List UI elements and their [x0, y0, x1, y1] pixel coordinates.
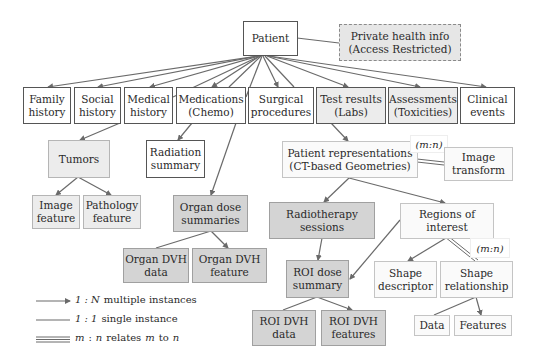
node-data: Data — [414, 315, 450, 336]
node-patient-representations: Patient representations (CT-based Geomet… — [282, 141, 418, 178]
node-image-transform: Image transform — [444, 147, 513, 181]
node-regions-of-interest: Regions of interest — [400, 203, 494, 239]
legend-one-to-one: 1 : 1 single instance — [75, 313, 178, 324]
node-patient: Patient — [243, 21, 298, 56]
node-private-health-info: Private health info (Access Restricted) — [339, 24, 461, 61]
mn-label-shape-relationship: (m:n) — [470, 238, 510, 258]
legend-n-symbol: n — [96, 332, 102, 343]
node-surgical-procedures: Surgical procedures — [248, 87, 314, 124]
node-family-history: Family history — [23, 87, 71, 124]
node-pathology-feature: Pathology feature — [83, 195, 141, 229]
node-medical-history: Medical history — [124, 87, 173, 124]
legend-m-symbol-2: m — [145, 332, 154, 343]
node-radiation-summary: Radiation summary — [146, 140, 205, 178]
node-tumors: Tumors — [48, 140, 110, 178]
node-shape-relationship: Shape relationship — [440, 261, 513, 298]
node-test-results: Test results (Labs) — [316, 87, 386, 124]
legend-one-to-one-symbol: 1 : 1 — [75, 313, 97, 324]
node-roi-dvh-data: ROI DVH data — [252, 310, 316, 346]
legend-one-to-many-symbol: 1 : N — [75, 294, 100, 305]
node-organ-dose-summaries: Organ dose summaries — [173, 195, 248, 232]
node-medications: Medications (Chemo) — [176, 87, 246, 124]
legend-m-symbol: m — [75, 332, 84, 343]
node-clinical-events: Clinical events — [460, 87, 515, 124]
node-roi-dose-summary: ROI dose summary — [286, 260, 349, 298]
node-radiotherapy-sessions: Radiotherapy sessions — [269, 202, 375, 239]
node-image-feature: Image feature — [32, 195, 80, 229]
legend-colon: : — [88, 332, 91, 343]
node-organ-dvh-feature: Organ DVH feature — [192, 248, 267, 283]
node-social-history: Social history — [74, 87, 121, 124]
node-organ-dvh-data: Organ DVH data — [123, 248, 189, 283]
legend-n-symbol-2: n — [173, 332, 179, 343]
mn-label-image-transform: (m:n) — [410, 135, 448, 153]
legend-one-to-many: 1 : N multiple instances — [75, 294, 197, 305]
node-shape-descriptor: Shape descriptor — [374, 261, 437, 298]
legend-one-to-one-text: single instance — [101, 313, 177, 324]
legend-to-text: to — [159, 332, 169, 343]
data-model-diagram: Patient Private health info (Access Rest… — [0, 0, 541, 361]
legend-many-to-many: m : n relates m to n — [75, 332, 179, 343]
node-roi-dvh-features: ROI DVH features — [321, 310, 386, 346]
legend-relates-text: relates — [106, 332, 141, 343]
node-features: Features — [454, 315, 512, 336]
node-assessments: Assessments (Toxicities) — [388, 87, 458, 124]
legend-one-to-many-text: multiple instances — [104, 294, 197, 305]
